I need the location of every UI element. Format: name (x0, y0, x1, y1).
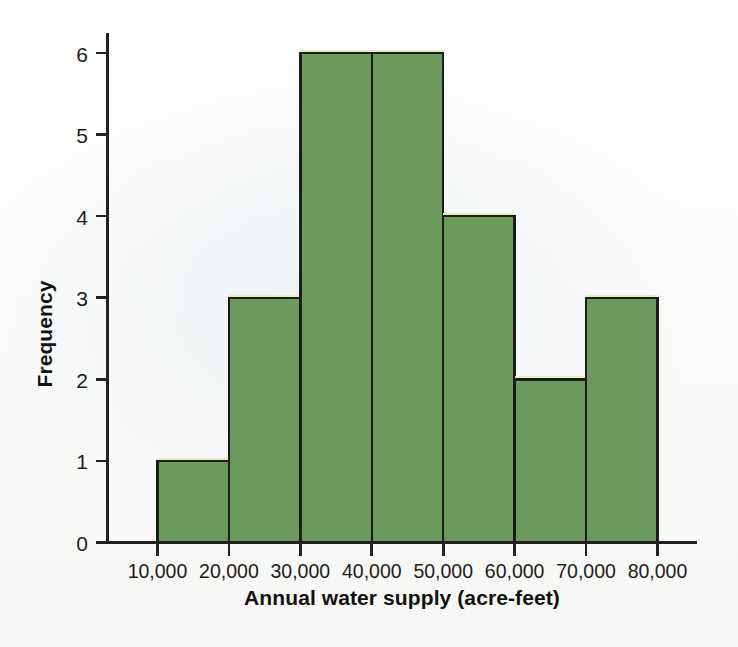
x-axis-ticks: 10,00020,00030,00040,00050,00060,00070,0… (128, 543, 688, 583)
y-tick-label: 3 (76, 287, 88, 310)
bar-body (372, 53, 443, 543)
histogram-bar (300, 50, 371, 543)
y-tick-label: 4 (76, 206, 88, 229)
y-axis-ticks: 0123456 (76, 43, 107, 556)
x-tick-label: 50,000 (413, 560, 473, 582)
histogram-bar (158, 458, 229, 543)
x-tick-label: 40,000 (342, 560, 402, 582)
y-tick-label: 0 (76, 532, 88, 555)
bar-body (229, 298, 300, 543)
x-tick-label: 20,000 (199, 560, 259, 582)
histogram-bar (586, 295, 657, 543)
bar-body (443, 216, 514, 542)
bar-body (158, 461, 229, 543)
y-axis-title: Frequency (33, 280, 56, 387)
x-tick-label: 60,000 (485, 560, 545, 582)
chart-page: 0123456 10,00020,00030,00040,00050,00060… (0, 0, 738, 647)
bars-layer (158, 50, 658, 543)
bar-body (586, 298, 657, 543)
x-tick-label: 80,000 (628, 560, 688, 582)
histogram-bar (443, 213, 514, 543)
x-tick-label: 10,000 (128, 560, 188, 582)
y-tick-label: 5 (76, 124, 88, 147)
histogram-bar (372, 50, 443, 543)
histogram-bar (229, 295, 300, 543)
y-tick-label: 2 (76, 369, 88, 392)
y-tick-label: 1 (76, 450, 88, 473)
histogram-bar (515, 376, 586, 542)
x-axis-title: Annual water supply (acre-feet) (244, 586, 560, 609)
bar-body (300, 53, 371, 543)
x-tick-label: 70,000 (556, 560, 616, 582)
histogram-figure: 0123456 10,00020,00030,00040,00050,00060… (0, 0, 738, 647)
x-tick-label: 30,000 (271, 560, 331, 582)
y-tick-label: 6 (76, 43, 88, 66)
bar-body (515, 379, 586, 542)
